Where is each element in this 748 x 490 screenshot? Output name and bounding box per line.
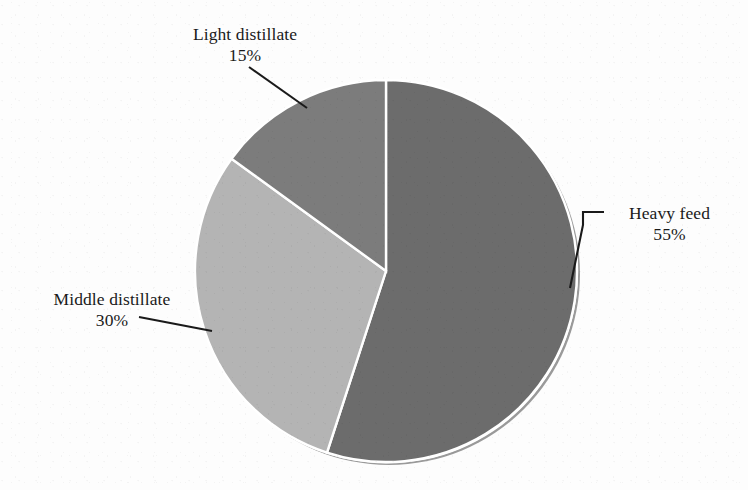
- label-light-distillate-text: Light distillate: [193, 24, 297, 44]
- pie-chart-figure: Light distillate 15% Heavy feed 55% Midd…: [0, 0, 748, 490]
- leader-line-light-distillate: [249, 67, 307, 108]
- label-light-distillate-percent: 15%: [170, 45, 320, 66]
- label-heavy-feed: Heavy feed 55%: [612, 203, 727, 246]
- label-heavy-feed-text: Heavy feed: [629, 203, 710, 223]
- label-heavy-feed-percent: 55%: [612, 224, 727, 245]
- label-middle-distillate-text: Middle distillate: [54, 289, 171, 309]
- label-middle-distillate: Middle distillate 30%: [28, 289, 196, 332]
- label-light-distillate: Light distillate 15%: [170, 24, 320, 67]
- label-middle-distillate-percent: 30%: [28, 310, 196, 331]
